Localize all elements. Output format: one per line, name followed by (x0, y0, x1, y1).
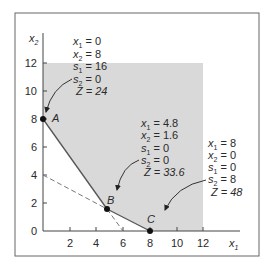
y-tick-label: 4 (31, 169, 37, 181)
feasible-region (43, 63, 203, 231)
svg-text:Z = 24: Z = 24 (75, 85, 108, 97)
x-tick-label: 4 (93, 237, 99, 249)
y-axis-label: x2 (28, 32, 39, 46)
point-c-label: C (147, 213, 155, 225)
svg-text:s2 = 8: s2 = 8 (208, 173, 236, 187)
svg-text:Z = 48: Z = 48 (210, 186, 243, 198)
point-b-marker (104, 206, 110, 212)
y-tick-label: 12 (25, 57, 37, 69)
svg-text:Z = 33.6: Z = 33.6 (143, 166, 186, 178)
point-c-marker (147, 228, 153, 234)
lp-graph: 2 4 6 8 10 12 0 2 4 6 8 10 12 x2 x1 A B … (0, 0, 270, 263)
origin-label: 0 (31, 225, 37, 237)
point-a-marker (40, 116, 46, 122)
y-tick-label: 8 (31, 113, 37, 125)
annotation-c: x1 = 8 x2 = 0 s1 = 0 s2 = 8 Z = 48 (207, 137, 243, 198)
x-tick-label: 6 (120, 237, 126, 249)
y-tick-label: 10 (25, 85, 37, 97)
y-tick-label: 6 (31, 141, 37, 153)
point-b-label: B (107, 194, 114, 206)
svg-text:s1 = 16: s1 = 16 (73, 60, 107, 74)
x-tick-label: 12 (197, 237, 209, 249)
annotation-a: x1 = 0 x2 = 8 s1 = 16 s2 = 0 Z = 24 (72, 35, 108, 97)
x-tick-label: 8 (147, 237, 153, 249)
point-a-label: A (51, 112, 59, 124)
svg-text:x1 = 0: x1 = 0 (72, 35, 101, 49)
x-tick-label: 10 (171, 237, 183, 249)
x-tick-label: 2 (67, 237, 73, 249)
x-axis-label: x1 (228, 237, 239, 251)
y-tick-label: 2 (31, 197, 37, 209)
svg-text:x2 = 1.6: x2 = 1.6 (140, 129, 178, 143)
